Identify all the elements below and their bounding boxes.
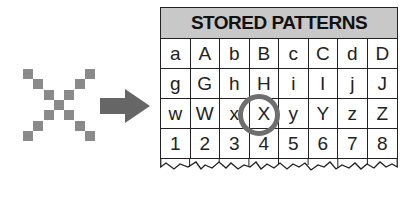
pixel <box>85 131 95 141</box>
pattern-cell: w <box>161 99 191 129</box>
pattern-cell: 6 <box>309 129 339 159</box>
pattern-cell: g <box>161 69 191 99</box>
pattern-cell: i <box>279 69 309 99</box>
pattern-cell: 3 <box>220 129 250 159</box>
pixel <box>75 121 85 131</box>
pattern-cell: D <box>368 39 398 69</box>
pattern-cell: z <box>338 99 368 129</box>
pattern-cell: j <box>338 69 368 99</box>
pixel <box>85 69 95 79</box>
pixel <box>54 100 64 110</box>
pattern-cell: W <box>191 99 221 129</box>
pattern-cell: x <box>220 99 250 129</box>
pattern-cell: X <box>250 99 280 129</box>
pattern-cell: 5 <box>279 129 309 159</box>
pixel <box>33 121 43 131</box>
pattern-cell: G <box>191 69 221 99</box>
pixel <box>64 110 74 120</box>
pattern-cell: d <box>338 39 368 69</box>
table-title: STORED PATTERNS <box>160 7 398 39</box>
input-pattern-pixel-x-icon <box>23 69 96 142</box>
pattern-cell: 7 <box>338 129 368 159</box>
pixel <box>44 110 54 120</box>
torn-edge <box>160 159 398 177</box>
pattern-cell: 2 <box>191 129 221 159</box>
stored-patterns-table: STORED PATTERNS aAbBcCdDgGhHiIjJwWxXyYzZ… <box>160 7 398 177</box>
pattern-cell: a <box>161 39 191 69</box>
pattern-cell: Z <box>368 99 398 129</box>
pattern-cell: 1 <box>161 129 191 159</box>
patterns-grid: aAbBcCdDgGhHiIjJwWxXyYzZ12345678 <box>160 39 398 159</box>
pixel <box>64 90 74 100</box>
pattern-cell: B <box>250 39 280 69</box>
right-arrow-icon <box>100 89 150 123</box>
pattern-cell: 8 <box>368 129 398 159</box>
pixel <box>44 90 54 100</box>
pixel <box>33 79 43 89</box>
pattern-cell: c <box>279 39 309 69</box>
pattern-cell: Y <box>309 99 339 129</box>
pattern-cell: I <box>309 69 339 99</box>
pattern-cell: A <box>191 39 221 69</box>
pattern-cell: H <box>250 69 280 99</box>
pattern-cell: b <box>220 39 250 69</box>
pixel <box>23 131 33 141</box>
pattern-cell: 4 <box>250 129 280 159</box>
pattern-cell: y <box>279 99 309 129</box>
pattern-cell: C <box>309 39 339 69</box>
pattern-cell: J <box>368 69 398 99</box>
pixel <box>23 69 33 79</box>
pattern-cell: h <box>220 69 250 99</box>
pixel <box>75 79 85 89</box>
